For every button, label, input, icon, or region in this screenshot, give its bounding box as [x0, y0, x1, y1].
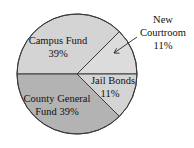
- label-campus-fund-name: Campus Fund: [29, 35, 88, 46]
- pie-chart-svg: Campus Fund 39% New Courtroom 11% Jail B…: [0, 0, 194, 148]
- label-jail-bonds-value: 11%: [101, 88, 120, 99]
- label-new-courtroom-line1: New: [153, 14, 173, 25]
- label-new-courtroom-line2: Courtroom: [140, 27, 186, 38]
- pie-chart-figure: Campus Fund 39% New Courtroom 11% Jail B…: [0, 0, 194, 148]
- label-county-general-fund-value: Fund 39%: [35, 106, 79, 117]
- label-new-courtroom-value: 11%: [154, 40, 173, 51]
- label-county-general-fund-name: County General: [24, 93, 91, 104]
- label-campus-fund-value: 39%: [48, 48, 68, 59]
- label-jail-bonds-name: Jail Bonds: [91, 75, 135, 86]
